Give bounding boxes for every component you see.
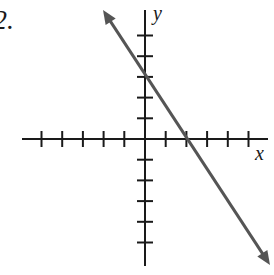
y-axis-label: y — [153, 3, 162, 23]
x-axis-label: x — [255, 143, 264, 163]
coordinate-plane-figure: 2. y x — [0, 0, 274, 275]
arrowhead-upper-left — [103, 10, 116, 25]
coordinate-plane — [0, 0, 274, 275]
line-segment — [109, 19, 264, 255]
arrowhead-lower-right — [257, 250, 270, 265]
problem-number: 2. — [0, 6, 14, 34]
graphed-line — [103, 10, 270, 265]
